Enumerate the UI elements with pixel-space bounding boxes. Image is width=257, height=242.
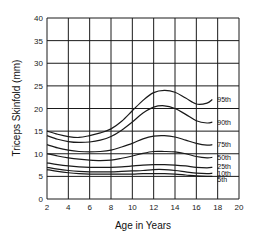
curve-95th (47, 90, 212, 137)
y-tick-label: 5 (39, 172, 44, 181)
triceps-skinfold-chart: 95th90th75th50th25th10th5th 246810121416… (0, 0, 257, 242)
x-tick-label: 4 (66, 203, 71, 212)
chart-grid (47, 18, 239, 199)
y-tick-label: 25 (34, 82, 43, 91)
percentile-curves (47, 90, 212, 176)
x-tick-label: 18 (213, 203, 222, 212)
curve-50th (47, 151, 212, 160)
y-tick-label: 15 (34, 127, 43, 136)
x-tick-label: 10 (128, 203, 137, 212)
percentile-label-75th: 75th (217, 141, 231, 148)
y-tick-label: 35 (34, 37, 43, 46)
x-tick-label: 12 (149, 203, 158, 212)
percentile-label-90th: 90th (217, 119, 231, 126)
curve-25th (47, 163, 212, 168)
curve-75th (47, 136, 212, 152)
percentile-label-5th: 5th (217, 176, 227, 183)
y-axis-ticks: 0510152025303540 (34, 14, 43, 204)
x-axis-ticks: 2468101214161820 (45, 203, 244, 212)
y-tick-label: 40 (34, 14, 43, 23)
x-tick-label: 20 (235, 203, 244, 212)
x-tick-label: 8 (109, 203, 114, 212)
y-tick-label: 20 (34, 105, 43, 114)
y-tick-label: 0 (39, 195, 44, 204)
y-axis-label: Triceps Skinfold (mm) (11, 60, 22, 157)
x-tick-label: 14 (171, 203, 180, 212)
y-tick-label: 30 (34, 59, 43, 68)
x-tick-label: 16 (192, 203, 201, 212)
x-tick-label: 6 (87, 203, 92, 212)
percentile-label-95th: 95th (217, 96, 231, 103)
x-tick-label: 2 (45, 203, 50, 212)
percentile-label-50th: 50th (217, 154, 231, 161)
y-tick-label: 10 (34, 150, 43, 159)
x-axis-label: Age in Years (115, 220, 171, 231)
